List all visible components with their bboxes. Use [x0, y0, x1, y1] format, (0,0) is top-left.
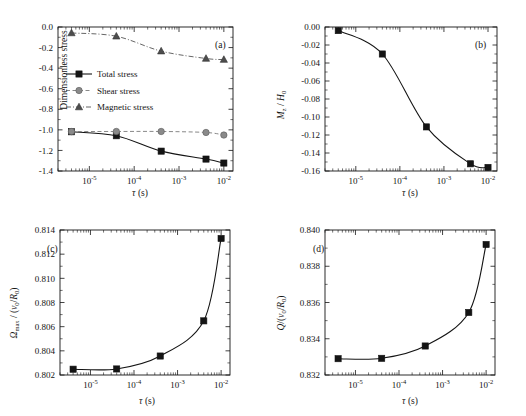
data-point-marker — [203, 156, 209, 162]
data-point-marker — [483, 241, 489, 247]
plot-frame — [58, 27, 233, 171]
y-axis-tick-label: -0.14 — [301, 148, 320, 158]
x-axis-tick-label: 10-3 — [170, 378, 184, 390]
data-point-marker — [221, 132, 227, 138]
panel-d-xlabel-unit: (s) — [406, 396, 418, 407]
panel-c-axes: 0.8140.8120.8100.8080.8060.8040.80210-51… — [35, 225, 230, 389]
panel-d-axes: 0.8400.8380.8360.8340.83210-510-410-310-… — [300, 225, 495, 389]
panel-a-xlabel: τ (s) — [132, 188, 148, 199]
panel-b-tag: (b) — [475, 40, 486, 51]
panel-b-ylabel: Mz / H0 — [276, 91, 287, 120]
panel-d-curves — [335, 241, 489, 361]
y-axis-tick-label: 0.838 — [300, 261, 321, 271]
data-point-marker — [466, 309, 472, 315]
x-axis-tick-label: 10-4 — [127, 378, 142, 390]
panel-b: 0.00-0.02-0.04-0.06-0.08-0.10-0.12-0.14-… — [263, 0, 526, 208]
data-point-marker — [158, 148, 164, 154]
plot-frame — [325, 27, 497, 171]
y-axis-tick-label: 0.814 — [35, 225, 56, 235]
y-axis-tick-label: -0.12 — [301, 130, 320, 140]
y-axis-tick-label: -0.8 — [39, 104, 54, 114]
x-axis-tick-label: 10-4 — [393, 174, 408, 186]
data-point-marker — [422, 343, 428, 349]
panel-c-ylabel-rest1: / ( — [9, 310, 20, 321]
y-axis-tick-label: -0.16 — [301, 166, 320, 176]
panel-a-curves — [68, 29, 228, 166]
y-axis-tick-label: -0.04 — [301, 58, 320, 68]
panel-a-xlabel-unit: (s) — [136, 188, 148, 199]
data-point-marker — [113, 128, 119, 134]
data-point-marker — [335, 356, 341, 362]
x-axis-tick-label: 10-3 — [437, 174, 451, 186]
series-line — [73, 238, 221, 370]
panel-c-xlabel: τ (s) — [139, 396, 155, 407]
y-axis-tick-label: 0.804 — [35, 346, 56, 356]
y-axis-tick-label: -0.10 — [301, 112, 320, 122]
panel-a-legend: Total stressShear stressMagnetic stress — [66, 69, 154, 112]
y-axis-tick-label: 0.832 — [300, 370, 320, 380]
data-point-marker — [76, 87, 82, 93]
y-axis-tick-label: 0.810 — [35, 274, 56, 284]
data-point-marker — [70, 366, 76, 372]
data-point-marker — [158, 128, 164, 134]
panel-c-xlabel-unit: (s) — [143, 396, 155, 407]
y-axis-tick-label: -0.08 — [301, 94, 320, 104]
data-point-marker — [114, 366, 120, 372]
data-point-marker — [75, 103, 82, 110]
y-axis-tick-label: -0.02 — [301, 40, 320, 50]
y-axis-tick-label: 0.808 — [35, 298, 56, 308]
y-axis-tick-label: -0.4 — [39, 63, 54, 73]
data-point-marker — [379, 51, 385, 57]
x-axis-tick-label: 10-2 — [479, 378, 493, 390]
y-axis-tick-label: -0.06 — [301, 76, 320, 86]
x-axis-tick-label: 10-5 — [83, 378, 97, 390]
panel-a-svg: 0.0-0.2-0.4-0.6-0.8-1.0-1.2-1.410-510-41… — [0, 0, 263, 208]
panel-d: 0.8400.8380.8360.8340.83210-510-410-310-… — [263, 208, 526, 416]
y-axis-tick-label: -1.2 — [39, 146, 53, 156]
y-axis-tick-label: 0.840 — [300, 225, 321, 235]
panel-c-svg: 0.8140.8120.8100.8080.8060.8040.80210-51… — [0, 208, 263, 416]
x-axis-tick-label: 10-4 — [127, 174, 142, 186]
y-axis-tick-label: 0.806 — [35, 322, 56, 332]
panel-b-svg: 0.00-0.02-0.04-0.06-0.08-0.10-0.12-0.14-… — [263, 0, 526, 208]
y-axis-tick-label: -1.0 — [39, 125, 54, 135]
data-point-marker — [423, 124, 429, 130]
x-axis-tick-label: 10-5 — [82, 174, 96, 186]
x-axis-tick-label: 10-3 — [172, 174, 186, 186]
data-point-marker — [485, 164, 491, 170]
data-point-marker — [157, 353, 163, 359]
data-point-marker — [467, 161, 473, 167]
panel-c-curves — [70, 235, 224, 372]
y-axis-tick-label: -0.6 — [39, 84, 54, 94]
panel-b-curves — [335, 28, 491, 171]
y-axis-tick-label: -0.2 — [39, 43, 53, 53]
legend-label: Magnetic stress — [97, 102, 154, 112]
panel-a-tag: (a) — [215, 40, 226, 51]
data-point-marker — [68, 128, 74, 134]
y-axis-tick-label: 0.0 — [42, 22, 54, 32]
data-point-marker — [221, 160, 227, 166]
x-axis-tick-label: 10-5 — [349, 174, 363, 186]
x-axis-tick-label: 10-3 — [435, 378, 449, 390]
data-point-marker — [379, 355, 385, 361]
data-point-marker — [201, 318, 207, 324]
data-point-marker — [203, 129, 209, 135]
y-axis-tick-label: 0.836 — [300, 298, 321, 308]
series-line — [338, 31, 488, 168]
panel-a-ylabel: Dimensionless stress — [59, 30, 69, 110]
panel-c-ylabel: Ωmax / (v0/R0) — [9, 288, 20, 339]
panel-d-ylabel: Q/(v0/R0) — [276, 295, 287, 330]
panel-b-ylabel-mid: / — [276, 101, 286, 108]
panel-b-xlabel-unit: (s) — [406, 188, 418, 199]
panel-d-tag: (d) — [313, 244, 324, 255]
x-axis-tick-label: 10-2 — [214, 378, 228, 390]
x-axis-tick-label: 10-2 — [481, 174, 495, 186]
panel-c-ylabel-rest2: ) — [9, 288, 20, 291]
x-axis-tick-label: 10-4 — [392, 378, 407, 390]
y-axis-tick-label: 0.834 — [300, 334, 321, 344]
panel-c-ylabel-omegasub: max — [13, 320, 20, 332]
figure-four-panel: 0.0-0.2-0.4-0.6-0.8-1.0-1.2-1.410-510-41… — [0, 0, 526, 416]
panel-d-svg: 0.8400.8380.8360.8340.83210-510-410-310-… — [263, 208, 526, 416]
data-point-marker — [335, 28, 341, 34]
series-line — [72, 132, 224, 163]
